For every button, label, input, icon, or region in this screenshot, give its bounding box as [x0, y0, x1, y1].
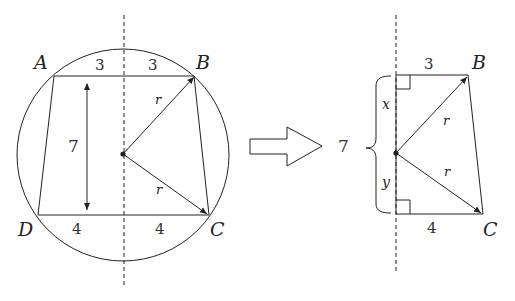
bottom-length-right: 4 [427, 219, 437, 237]
trapezoid-abcd [38, 76, 209, 215]
radius-label-lower: r [156, 182, 163, 197]
transition-arrow-icon [250, 127, 322, 166]
right-angle-bottom [396, 200, 410, 214]
lower-part-label: y [381, 174, 391, 190]
vertex-a-label: A [32, 51, 48, 73]
radius-to-b-right [396, 77, 467, 153]
radius-label-upper: r [155, 92, 162, 107]
radius-to-c [123, 154, 207, 214]
center-point-right [393, 150, 398, 155]
radius-label-upper-right: r [443, 113, 450, 128]
vertex-c-label: C [210, 218, 225, 240]
side-bc [468, 75, 483, 214]
center-point [120, 151, 125, 156]
height-length: 7 [68, 136, 79, 156]
upper-part-label: x [382, 96, 390, 112]
bottom-right-length: 4 [155, 220, 165, 238]
radius-label-lower-right: r [444, 164, 451, 179]
top-right-length: 3 [148, 56, 158, 74]
vertex-c-label-right: C [483, 218, 498, 240]
right-figure: B C 3 4 7 x y r r [338, 15, 498, 272]
radius-to-b [123, 77, 194, 154]
vertex-d-label: D [17, 218, 33, 240]
diagram-canvas: A B C D 3 3 4 4 7 r r B C 3 4 7 x y r r [0, 0, 515, 301]
brace-length: 7 [338, 136, 349, 156]
right-angle-top [396, 75, 410, 89]
top-length-right: 3 [424, 55, 434, 73]
vertex-b-label-right: B [471, 51, 486, 73]
radius-to-c-right [396, 153, 481, 213]
top-left-length: 3 [95, 56, 105, 74]
left-figure: A B C D 3 3 4 4 7 r r [17, 15, 229, 286]
vertex-b-label: B [195, 51, 210, 73]
bottom-left-length: 4 [72, 220, 82, 238]
